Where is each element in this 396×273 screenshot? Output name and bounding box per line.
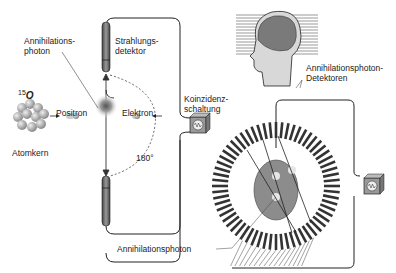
label-annihilation-photon-top: Annihilations- photon (24, 36, 75, 56)
label-positron: Positron (56, 108, 87, 118)
annihilation-event (94, 94, 118, 118)
label-isotope: 15O (18, 88, 34, 101)
label-line: schaltung (184, 104, 228, 114)
coincidence-circuit-box-left (190, 113, 210, 133)
label-line: detektor (115, 46, 158, 56)
label-line: Koinzidenz- (184, 94, 228, 104)
label-electron: Elektron (122, 108, 153, 118)
label-line: Annihilations- (24, 36, 75, 46)
label-line: Annihilationsphoton- (306, 63, 383, 73)
radiation-detector-bottom (102, 176, 110, 226)
label-line: photon (24, 46, 75, 56)
isotope-mass: 15 (18, 89, 26, 96)
label-angle: 180° (136, 153, 154, 163)
label-line: Detektoren (306, 73, 383, 83)
atom-nucleus-icon (13, 99, 49, 132)
coincidence-circuit-box-right (364, 174, 384, 194)
isotope-symbol: O (26, 90, 34, 101)
label-line: Strahlungs- (115, 36, 158, 46)
radiation-detector-top (102, 22, 110, 72)
label-detectors: Annihilationsphoton- Detektoren (306, 63, 383, 83)
label-nucleus: Atomkern (12, 148, 48, 158)
label-annihilation-photon-bottom: Annihilationsphoton (117, 244, 191, 254)
label-coincidence: Koinzidenz- schaltung (184, 94, 228, 114)
label-radiation-detector: Strahlungs- detektor (115, 36, 158, 56)
